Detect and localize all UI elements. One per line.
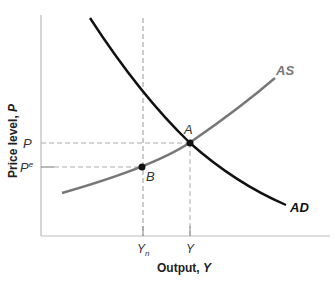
y-tick-pe: Pe bbox=[20, 160, 34, 175]
point-b bbox=[139, 164, 146, 171]
ad-label: AD bbox=[289, 200, 309, 215]
x-tick-yn-label: Yn bbox=[137, 242, 150, 258]
as-label: AS bbox=[275, 63, 294, 78]
point-a-label: A bbox=[183, 122, 193, 137]
y-tick-p: P bbox=[23, 136, 32, 151]
as-curve bbox=[62, 78, 275, 193]
x-tick-y-label: Y bbox=[186, 242, 195, 256]
y-axis-title: Price level, P bbox=[6, 103, 20, 178]
point-a bbox=[187, 140, 194, 147]
point-b-label: B bbox=[146, 169, 155, 184]
x-axis-title: Output, Y bbox=[157, 261, 212, 275]
ad-curve bbox=[90, 18, 286, 205]
as-ad-diagram: A B AS AD P Pe Yn Y Output, Y Price leve… bbox=[0, 0, 335, 284]
